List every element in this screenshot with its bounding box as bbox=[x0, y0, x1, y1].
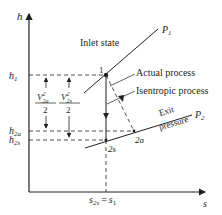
point-2a-label: 2a bbox=[135, 135, 145, 145]
isentropic-process-label: Isentropic process bbox=[136, 85, 209, 96]
x-axis-label: s bbox=[203, 198, 207, 209]
p1-label: P1 bbox=[161, 24, 172, 37]
state-1-point bbox=[104, 73, 108, 77]
h-s-diagram: h s h1 h2a h2s s2s=s1 P1 P2 1 2s 2a Inle… bbox=[0, 0, 222, 215]
actual-process-label: Actual process bbox=[136, 67, 195, 78]
state-2s-point bbox=[105, 139, 108, 142]
actual-leader bbox=[110, 74, 135, 86]
h1-label: h1 bbox=[9, 70, 18, 83]
point-1-label: 1 bbox=[99, 65, 104, 75]
actual-process-line bbox=[106, 75, 134, 131]
state-2a-point bbox=[133, 130, 136, 133]
exit-label: Exit bbox=[158, 104, 176, 118]
ke-actual-denominator: 2 bbox=[43, 105, 48, 115]
isentropic-leader bbox=[107, 91, 135, 104]
p2-label: P2 bbox=[194, 109, 205, 122]
ke-isentropic-numerator: V22s bbox=[61, 91, 73, 104]
ke-actual-numerator: V22a bbox=[37, 91, 49, 104]
inlet-state-label: Inlet state bbox=[80, 37, 120, 48]
isentropic-arrow-icon bbox=[103, 113, 109, 119]
s-tick-label: s2s=s1 bbox=[89, 194, 117, 207]
y-axis-label: h bbox=[17, 10, 23, 22]
point-2s-label: 2s bbox=[108, 144, 117, 154]
ke-isentropic-denominator: 2 bbox=[66, 105, 71, 115]
